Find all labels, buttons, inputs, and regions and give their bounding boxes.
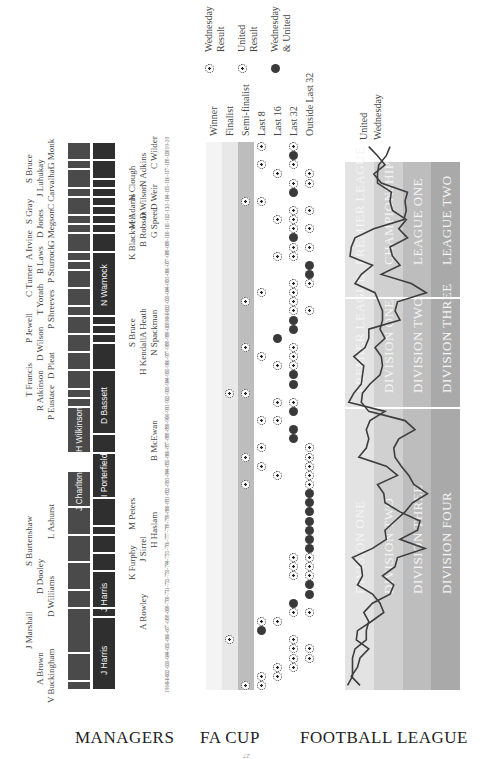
league-position-chart [0, 0, 486, 759]
league-line-united [350, 147, 428, 686]
